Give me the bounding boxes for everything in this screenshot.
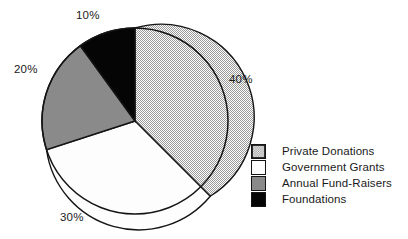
legend-swatch-private-donations <box>251 144 266 159</box>
slice-value-label-annual-fund-raisers: 20% <box>14 63 38 75</box>
legend-label-government-grants: Government Grants <box>282 159 385 175</box>
legend-item-private-donations: Private Donations <box>251 143 406 159</box>
slice-value-label-foundations: 10% <box>76 9 100 21</box>
slice-value-label-government-grants: 30% <box>60 211 84 223</box>
legend-item-government-grants: Government Grants <box>251 159 406 175</box>
legend-label-foundations: Foundations <box>282 191 346 207</box>
legend-item-annual-fund-raisers: Annual Fund-Raisers <box>251 175 406 191</box>
legend-label-private-donations: Private Donations <box>282 143 374 159</box>
pie-chart-figure: 40% 30% 20% 10% Private Donations Govern… <box>0 0 408 239</box>
legend-swatch-annual-fund-raisers <box>251 176 266 191</box>
legend-label-annual-fund-raisers: Annual Fund-Raisers <box>282 175 392 191</box>
legend-swatch-government-grants <box>251 160 266 175</box>
chart-legend: Private Donations Government Grants Annu… <box>251 143 406 207</box>
legend-item-foundations: Foundations <box>251 191 406 207</box>
legend-swatch-foundations <box>251 192 266 207</box>
slice-value-label-private-donations: 40% <box>229 73 253 85</box>
